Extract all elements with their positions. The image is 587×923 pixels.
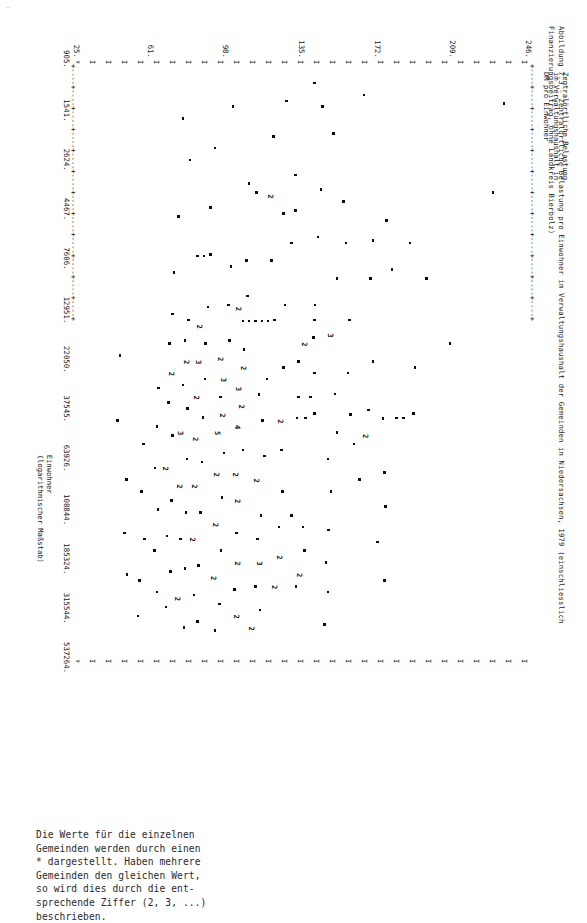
data-point-marker — [327, 458, 330, 461]
data-point-marker — [184, 567, 187, 570]
data-point-count: 2 — [192, 437, 199, 441]
figure-sideways-block: Abbildung 7.3 - Zentralörtliche Belastun… — [8, 20, 568, 680]
data-point-marker — [258, 393, 261, 396]
data-point-marker — [189, 159, 192, 162]
data-point-marker — [123, 532, 126, 535]
data-point-marker — [183, 626, 186, 629]
x-axis-tick: 315544. — [62, 593, 70, 624]
data-point-marker — [313, 412, 316, 415]
data-point-marker — [321, 105, 324, 108]
data-point-count: 2 — [235, 307, 242, 311]
data-point-marker — [261, 320, 264, 323]
data-point-marker — [313, 82, 316, 85]
scatter-data-layer: 232222222322232422222325222232222232222 — [76, 64, 528, 656]
data-point-count: 3 — [235, 387, 242, 391]
data-point-marker — [402, 417, 405, 420]
data-point-marker — [285, 100, 288, 103]
data-point-marker — [125, 478, 128, 481]
data-point-count: 2 — [193, 396, 200, 400]
data-point-marker — [323, 623, 326, 626]
y-axis-tick: 25. — [72, 22, 80, 58]
data-point-marker — [157, 387, 160, 390]
data-point-marker — [348, 319, 351, 322]
x-axis-tick: 537264. — [62, 642, 70, 673]
data-point-marker — [196, 620, 199, 623]
data-point-marker — [391, 268, 394, 271]
plot-frame: +----+----+----+----+----+----+----+----… — [76, 64, 528, 656]
data-point-marker — [233, 588, 236, 591]
data-point-count: 2 — [196, 324, 203, 328]
data-point-marker — [303, 549, 306, 552]
data-point-marker — [336, 277, 339, 280]
data-point-marker — [205, 342, 208, 345]
x-axis-tick: 63926. — [62, 445, 70, 472]
y-axis-tick: 98. — [221, 22, 229, 58]
data-point-marker — [369, 277, 372, 280]
data-point-count: 2 — [183, 360, 190, 364]
data-point-marker — [230, 265, 233, 268]
data-point-marker — [492, 191, 495, 194]
data-point-marker — [140, 490, 143, 493]
data-point-marker — [425, 277, 428, 280]
y-axis-tick: 246. — [524, 22, 532, 58]
data-point-count: 2 — [213, 472, 220, 476]
data-point-marker — [313, 372, 316, 375]
y-axis-label: Zentralörtliche Belastung im Verwaltungs… — [542, 72, 570, 180]
data-point-marker — [327, 529, 330, 532]
data-point-count: 2 — [253, 478, 260, 482]
data-point-count: 2 — [174, 597, 181, 601]
data-point-marker — [169, 570, 172, 573]
data-point-count: 2 — [301, 342, 308, 346]
y-axis-tick: 61. — [146, 22, 154, 58]
data-point-count: 4 — [234, 425, 241, 429]
data-point-marker — [284, 304, 287, 307]
data-point-marker — [372, 360, 375, 363]
data-point-marker — [156, 591, 159, 594]
data-point-marker — [256, 538, 259, 541]
data-point-marker — [372, 239, 375, 242]
data-point-marker — [353, 443, 356, 446]
data-point-marker — [304, 417, 307, 420]
data-point-marker — [126, 573, 129, 576]
data-point-marker — [228, 339, 231, 342]
data-point-marker — [209, 206, 212, 209]
data-point-marker — [197, 564, 200, 567]
data-point-marker — [220, 549, 223, 552]
y-axis-tick: 135. — [297, 22, 305, 58]
data-point-marker — [227, 304, 230, 307]
data-point-count: 2 — [176, 484, 183, 488]
data-point-marker — [395, 417, 398, 420]
data-point-marker — [270, 259, 273, 262]
x-axis-tick: 2624. — [62, 149, 70, 171]
x-axis-tick: 22050. — [62, 346, 70, 373]
data-point-count: 3 — [220, 378, 227, 382]
data-point-marker — [266, 378, 269, 381]
data-point-count: 2 — [272, 585, 279, 589]
data-point-count: 2 — [162, 467, 169, 471]
data-point-marker — [255, 191, 258, 194]
x-axis-tick: 185324. — [62, 543, 70, 574]
data-point-count: 2 — [168, 372, 175, 376]
data-point-marker — [320, 188, 323, 191]
data-point-marker — [153, 549, 156, 552]
data-point-marker — [345, 242, 348, 245]
data-point-marker — [273, 319, 276, 322]
data-point-marker — [202, 416, 205, 419]
data-point-marker — [383, 471, 386, 474]
data-point-marker — [173, 271, 176, 274]
data-point-marker — [254, 585, 257, 588]
data-point-marker — [290, 514, 293, 517]
data-point-marker — [325, 561, 328, 564]
data-point-marker — [218, 603, 221, 606]
data-point-marker — [171, 434, 174, 437]
data-point-marker — [272, 135, 275, 138]
data-point-marker — [119, 354, 122, 357]
x-axis-tick: 7606. — [62, 247, 70, 269]
axis-frame-right: I I I I I I I I I I I I I I I I I I I I … — [76, 656, 528, 664]
data-point-marker — [156, 425, 159, 428]
data-point-marker — [376, 541, 379, 544]
data-point-marker — [139, 579, 142, 582]
data-point-marker — [414, 366, 417, 369]
y-axis-tick: 209. — [448, 22, 456, 58]
data-point-count: 2 — [232, 472, 239, 476]
